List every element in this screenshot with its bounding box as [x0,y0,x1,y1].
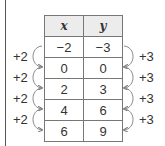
right-arc-icon [124,109,133,130]
right-arc-icon [124,67,133,88]
right-step-label: +3 [139,113,154,127]
right-arc-icon [124,46,133,67]
left-arc-icon [33,46,42,67]
right-arc-icon [124,88,133,109]
left-step-label: +2 [13,50,28,64]
left-arc-icon [33,88,42,109]
left-arc-icon [33,67,42,88]
right-step-label: +3 [139,50,154,64]
left-step-label: +2 [13,113,28,127]
left-arc-icon [33,109,42,130]
left-step-label: +2 [13,71,28,85]
right-step-label: +3 [139,71,154,85]
left-step-label: +2 [13,92,28,106]
right-step-label: +3 [139,92,154,106]
